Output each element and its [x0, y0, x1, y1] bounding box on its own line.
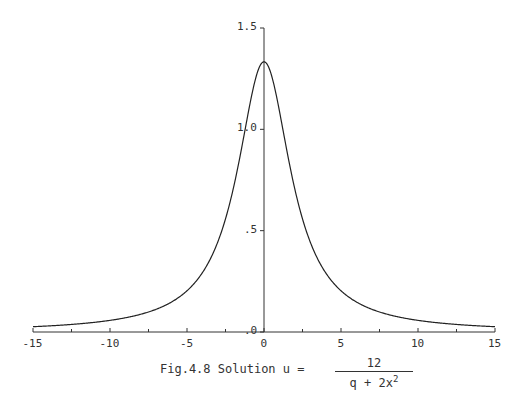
x-tick-label: 15: [488, 338, 501, 349]
axes: [33, 28, 495, 332]
caption-prefix: Fig.4.8 Solution u =: [160, 362, 305, 376]
y-tick-label: 1.5: [237, 21, 257, 32]
y-tick-label: .5: [244, 224, 257, 235]
x-tick-label: -15: [23, 338, 43, 349]
x-tick-label: -10: [100, 338, 120, 349]
x-tick-label: 10: [411, 338, 424, 349]
denominator-text: q + 2x: [350, 376, 393, 390]
y-tick-label: 1.0: [237, 122, 257, 133]
caption-fraction: 12 q + 2x2: [335, 356, 413, 390]
figure-caption: Fig.4.8 Solution u =: [160, 362, 305, 376]
y-tick-label: .0: [244, 325, 257, 336]
x-tick-label: 0: [261, 338, 268, 349]
x-tick-label: 5: [338, 338, 345, 349]
fraction-numerator: 12: [335, 356, 413, 371]
x-tick-label: -5: [180, 338, 193, 349]
fraction-denominator: q + 2x2: [335, 372, 413, 390]
exponent: 2: [393, 374, 398, 384]
